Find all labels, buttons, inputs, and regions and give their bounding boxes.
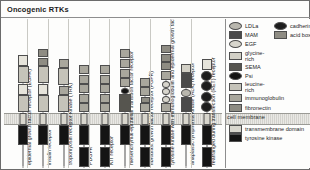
legend-item: LDLa	[229, 22, 272, 30]
domain-cysteine-rich	[38, 84, 48, 95]
legend-item: acid box	[274, 31, 310, 39]
domain-tyrosine-kinase	[59, 125, 69, 145]
domain-transmembrane	[101, 113, 108, 125]
receptor-diagram: epidermal growth factor receptor (EGFR)i…	[4, 19, 222, 168]
domain-transmembrane	[142, 113, 149, 125]
domain-immunoglobulin	[59, 86, 69, 95]
domain-tyrosine-kinase	[202, 125, 212, 145]
domain-immunoglobulin	[79, 84, 89, 93]
domain-cadherin	[201, 71, 212, 81]
domain-tyrosine-kinase	[140, 125, 150, 145]
legend-swatch-ldla	[229, 22, 242, 30]
domain-immunoglobulin	[79, 75, 89, 84]
legend-item: Psi	[229, 72, 272, 80]
domain-immunoglobulin	[161, 71, 171, 80]
legend-swatch-fibronectin	[229, 104, 242, 112]
domain-immunoglobulin	[100, 84, 110, 93]
domain-egf	[162, 88, 170, 95]
domain-transmembrane	[183, 113, 190, 125]
domain-mam	[181, 73, 192, 88]
legend-item: immunoglobulin	[229, 94, 272, 102]
domain-transmembrane	[40, 113, 47, 125]
domain-sema	[119, 94, 131, 112]
legend-swatch-egf	[229, 40, 242, 48]
legend-swatch-tyrosine-kinase	[229, 134, 242, 142]
domain-immunoglobulin	[120, 59, 130, 68]
domain-egf	[162, 96, 170, 103]
legend-swatch-cadherin	[274, 22, 287, 30]
domain-tyrosine-kinase	[79, 125, 89, 145]
domain-acid-box	[141, 97, 150, 103]
domain-cysteine-rich	[18, 55, 28, 66]
legend-label: LDLa	[245, 23, 258, 29]
domain-immunoglobulin	[140, 78, 150, 87]
domain-tyrosine-kinase	[100, 147, 110, 167]
domain-transmembrane	[20, 113, 27, 125]
domain-immunoglobulin	[79, 65, 89, 74]
domain-leucine-rich	[18, 95, 29, 112]
domain-fibronectin	[38, 49, 48, 57]
domain-immunoglobulin	[120, 69, 130, 78]
legend-item: MAM	[229, 31, 272, 39]
domain-transmembrane	[60, 113, 67, 125]
legend-item: EGF	[229, 40, 272, 48]
domain-leucine-rich	[38, 66, 49, 83]
legend-label: fibronectin	[245, 105, 271, 111]
legend-swatch-glycine-rich	[229, 52, 242, 60]
domain-tyrosine-kinase	[79, 147, 89, 167]
legend-label: Psi	[245, 73, 253, 79]
domain-immunoglobulin	[140, 103, 150, 112]
legend-label: leucine-rich	[245, 81, 272, 93]
domain-immunoglobulin	[79, 103, 89, 112]
domain-immunoglobulin	[59, 59, 69, 68]
domain-immunoglobulin	[100, 75, 110, 84]
domain-psi	[121, 88, 129, 94]
legend-item: leucine-rich	[229, 81, 272, 93]
domain-immunoglobulin	[140, 87, 150, 96]
domain-immunoglobulin	[100, 94, 110, 103]
legend-label: tyrosine kinase	[245, 135, 282, 141]
legend-item: cadherin	[274, 22, 310, 30]
legend-membrane-items: transmembrane domaintyrosine kinase	[226, 125, 310, 143]
domain-immunoglobulin	[100, 103, 110, 112]
receptor-column[interactable]: rearranged during transfection (RET) rec…	[194, 19, 220, 168]
legend-item: transmembrane domain	[229, 125, 310, 133]
legend-label: MAM	[245, 32, 258, 38]
domain-transmembrane	[122, 113, 129, 125]
domain-mam	[181, 97, 192, 112]
legend-swatch-psi	[229, 72, 242, 80]
legend-label: immunoglobulin	[245, 95, 284, 101]
domain-ldla	[181, 89, 191, 97]
legend-panel: LDLaMAMEGFglycine-richSEMAPsileucine-ric…	[225, 19, 310, 168]
legend-swatch-acid-box	[274, 31, 287, 39]
domain-fibronectin	[161, 45, 171, 53]
domain-fibronectin	[161, 62, 171, 70]
domain-immunoglobulin	[100, 65, 110, 74]
domain-fibronectin	[38, 58, 48, 66]
domain-leucine-rich	[58, 95, 69, 112]
domain-tyrosine-kinase	[202, 147, 212, 167]
domain-cysteine-rich	[18, 84, 28, 95]
domain-tyrosine-kinase	[140, 147, 150, 167]
legend-item: fibronectin	[229, 104, 272, 112]
legend-swatch-leucine-rich	[229, 83, 242, 91]
domain-transmembrane	[81, 113, 88, 125]
domain-tyrosine-kinase	[100, 125, 110, 145]
legend-label: cadherin	[290, 23, 310, 29]
domain-immunoglobulin	[161, 103, 171, 112]
domain-leucine-rich	[58, 68, 69, 85]
domain-immunoglobulin	[120, 49, 130, 58]
legend-label: acid box	[290, 32, 310, 38]
title-divider	[1, 17, 310, 18]
figure-title: Oncogenic RTKs	[7, 5, 69, 14]
legend-swatch-sema	[229, 63, 242, 71]
legend-item: glycine-rich	[229, 50, 272, 62]
legend-label: glycine-rich	[245, 50, 272, 62]
domain-cysteine-rich	[202, 59, 212, 70]
legend-swatch-transmembrane-domain	[229, 125, 242, 133]
domain-transmembrane	[203, 113, 210, 125]
figure-panel: Oncogenic RTKs epidermal growth factor r…	[0, 0, 310, 170]
domain-tyrosine-kinase	[181, 125, 191, 145]
legend-column-two: cadherinacid box	[271, 22, 310, 40]
legend-label: EGF	[245, 41, 256, 47]
